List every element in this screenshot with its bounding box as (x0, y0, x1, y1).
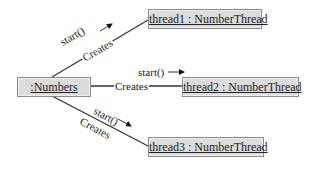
link-thread2-relation: Creates (114, 80, 149, 92)
object-thread2[interactable]: thread2 : NumberThread (182, 77, 299, 97)
object-numbers-label: :Numbers (30, 80, 77, 94)
link-thread2-message: start() (137, 66, 165, 78)
message-arrow-thread1-icon (100, 24, 112, 31)
link-thread3-line (52, 96, 148, 146)
object-numbers[interactable]: :Numbers (17, 77, 91, 97)
object-thread2-label: thread2 : NumberThread (183, 80, 302, 94)
object-thread1[interactable]: thread1 : NumberThread (148, 9, 262, 29)
object-thread3[interactable]: thread3 : NumberThread (148, 137, 264, 157)
object-thread1-label: thread1 : NumberThread (149, 12, 268, 26)
object-thread3-label: thread3 : NumberThread (149, 140, 268, 154)
